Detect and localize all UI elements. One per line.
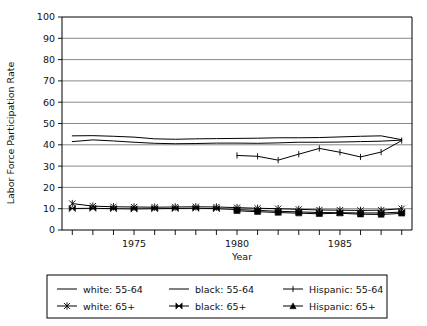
- y-tick-label-90: 90: [43, 33, 55, 44]
- labor-force-participation-chart: Labor Force Participation Rate 010203040…: [0, 0, 427, 326]
- x-tick-label-1985: 1985: [328, 238, 352, 249]
- x-axis-ticks: 197519801985: [72, 230, 401, 249]
- legend-label-4: black: 65+: [195, 301, 247, 312]
- grid-lines: [62, 38, 412, 208]
- legend-border: [47, 275, 387, 318]
- series-line-0: [72, 136, 401, 140]
- y-tick-label-60: 60: [43, 97, 55, 108]
- data-series-group: [69, 136, 405, 218]
- legend-label-5: Hispanic: 65+: [309, 301, 376, 312]
- y-tick-label-40: 40: [43, 139, 55, 150]
- x-axis-title: Year: [231, 251, 252, 262]
- series-0: [72, 136, 401, 140]
- y-axis-title: Labor Force Participation Rate: [5, 61, 16, 204]
- y-tick-label-30: 30: [43, 161, 55, 172]
- chart-legend: white: 55-64black: 55-64Hispanic: 55-64w…: [47, 275, 387, 318]
- chart-container: Labor Force Participation Rate 010203040…: [0, 0, 427, 326]
- y-tick-label-10: 10: [43, 203, 55, 214]
- y-tick-label-0: 0: [49, 224, 55, 235]
- x-tick-label-1980: 1980: [225, 238, 249, 249]
- legend-label-1: black: 55-64: [195, 284, 254, 295]
- legend-label-3: white: 65+: [83, 301, 135, 312]
- y-tick-label-70: 70: [43, 75, 55, 86]
- series-1: [72, 140, 401, 144]
- legend-label-0: white: 55-64: [83, 284, 143, 295]
- y-tick-label-20: 20: [43, 182, 55, 193]
- series-line-1: [72, 140, 401, 144]
- y-tick-label-100: 100: [37, 11, 55, 22]
- y-axis-ticks: 0102030405060708090100: [37, 11, 62, 235]
- y-axis-title-group: Labor Force Participation Rate: [5, 61, 16, 204]
- x-tick-label-1975: 1975: [122, 238, 146, 249]
- legend-label-2: Hispanic: 55-64: [309, 284, 383, 295]
- y-tick-label-50: 50: [43, 118, 55, 129]
- y-tick-label-80: 80: [43, 54, 55, 65]
